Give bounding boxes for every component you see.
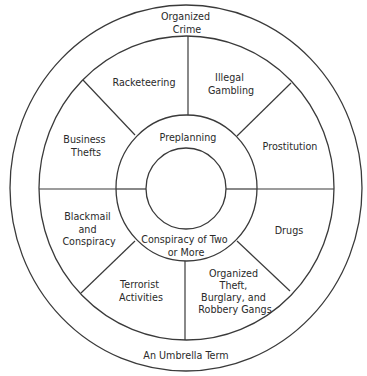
segment-drugs: Drugs (275, 225, 304, 236)
segment-ring (39, 36, 334, 340)
segment-blackmail-conspiracy: Blackmail and Conspiracy (62, 211, 116, 247)
outer-ring (10, 5, 362, 371)
organized-crime-diagram: Organized Crime An Umbrella Term Rackete… (0, 0, 367, 376)
outer-bottom-label: An Umbrella Term (143, 350, 228, 361)
segment-racketeering: Racketeering (112, 77, 175, 88)
inner-top-label: Preplanning (160, 132, 217, 143)
segment-illegal-gambling: Illegal Gambling (208, 72, 254, 96)
segment-business-thefts: Business Thefts (63, 134, 108, 158)
outer-top-label: Organized Crime (161, 11, 213, 35)
center-circle (146, 148, 226, 229)
divider-upper-left (83, 80, 135, 135)
segment-organized-theft: Organized Theft, Burglary, and Robbery G… (198, 268, 271, 315)
segment-terrorist-activities: Terrorist Activities (119, 279, 163, 303)
segment-prostitution: Prostitution (263, 141, 318, 152)
